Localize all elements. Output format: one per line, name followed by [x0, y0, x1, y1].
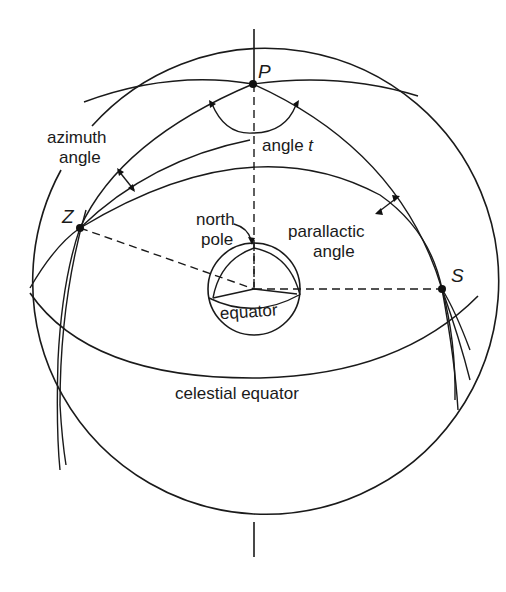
label-parallactic-line2: angle — [313, 242, 355, 261]
label-parallactic-line1: parallactic — [288, 222, 365, 241]
label-angle-t-prefix: angle — [262, 136, 308, 155]
outer-sphere — [33, 48, 499, 514]
label-azimuth-line2: angle — [59, 148, 101, 167]
point-p — [249, 80, 257, 88]
label-earth-equator: equator — [219, 300, 278, 323]
right-lower-arc — [442, 289, 455, 400]
label-z: Z — [61, 206, 75, 227]
earth-meridian-arc — [213, 248, 300, 298]
label-celestial-equator: celestial equator — [175, 384, 299, 403]
earth-radius-left — [213, 289, 254, 298]
right-crossing-arc — [442, 289, 470, 350]
label-angle-t: angle t — [262, 136, 314, 155]
label-north-line2: pole — [201, 230, 233, 249]
celestial-sphere-diagram: P Z S azimuth angle angle t north pole p… — [0, 0, 506, 592]
label-angle-t-var: t — [308, 136, 314, 155]
earth-radius-right — [254, 289, 297, 294]
label-north-line1: north — [196, 210, 235, 229]
label-s: S — [451, 265, 464, 286]
point-s — [438, 285, 446, 293]
label-p: P — [258, 61, 271, 82]
point-z — [76, 224, 84, 232]
label-azimuth-line1: azimuth — [47, 128, 107, 147]
left-inner-arc — [60, 210, 86, 465]
